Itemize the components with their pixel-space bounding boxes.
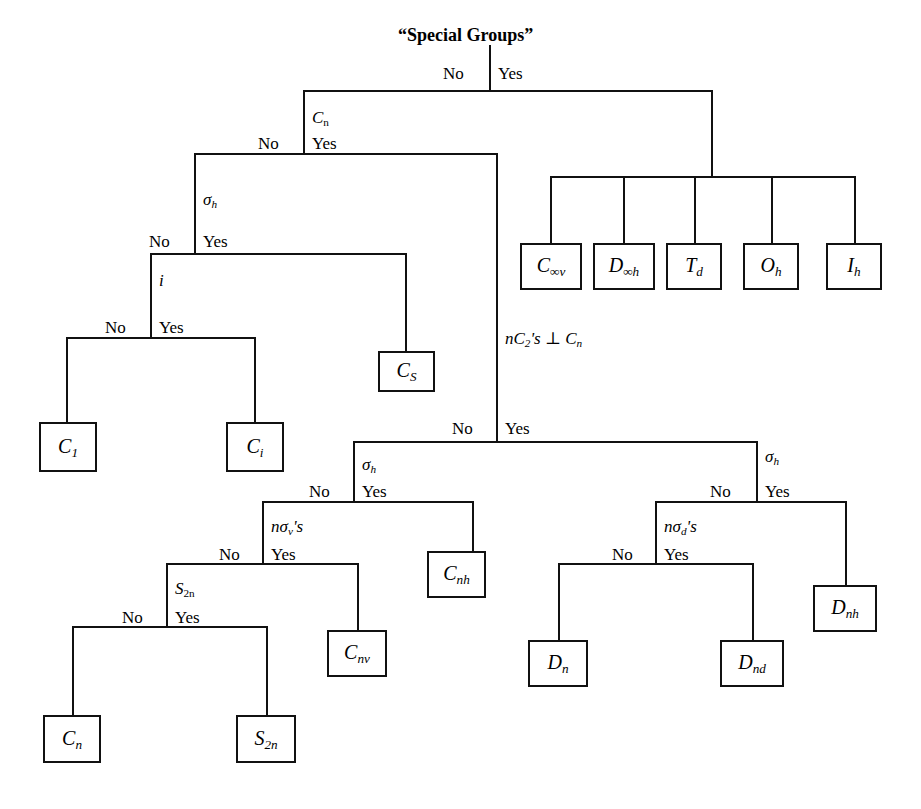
criterion-s2n-sub: 2n	[184, 587, 195, 599]
box-cn-base: C	[62, 727, 75, 749]
box-cnv: Cnv	[327, 630, 387, 677]
box-cnv-base: C	[344, 641, 357, 663]
sigma-h-right-crossbar	[655, 501, 847, 503]
box-s2n-sub: 2n	[264, 736, 277, 751]
box-ci: Ci	[226, 422, 284, 472]
dnd-stem	[752, 563, 754, 640]
box-c-inf-v-sub: ∞v	[550, 264, 565, 279]
box-oh-base: O	[760, 254, 774, 276]
n-sigma-v-yes-label: Yes	[271, 546, 296, 563]
box-cnh: Cnh	[427, 551, 486, 598]
box-ih-sub: h	[854, 264, 861, 279]
stem-c-inf-v	[550, 176, 552, 243]
sigma-h-mid-sub: h	[370, 463, 376, 475]
special-groups-drop	[711, 90, 713, 178]
box-d-inf-h-sub: ∞h	[623, 264, 639, 279]
criterion-sigma-h-right: σh	[765, 448, 779, 467]
box-dnh: Dnh	[813, 585, 877, 632]
box-dnh-base: D	[831, 596, 845, 618]
sigma-h-right-yes-label: Yes	[765, 483, 790, 500]
box-cn-stem	[72, 626, 74, 715]
c1-stem	[66, 337, 68, 422]
box-c-inf-v-base: C	[537, 254, 550, 276]
sigma-h-mid-no-label: No	[309, 483, 330, 500]
box-dnd-sub: nd	[753, 661, 766, 676]
box-dn-base: D	[547, 651, 561, 673]
cn-yes-drop	[496, 153, 498, 441]
sigma-h-mid-stem	[353, 441, 355, 501]
root-stem	[489, 45, 491, 90]
box-ih: Ih	[826, 243, 882, 290]
box-cnh-base: C	[443, 562, 456, 584]
s2n-node-stem	[166, 563, 168, 626]
dnh-stem	[845, 501, 847, 585]
special-groups-crossbar	[550, 176, 855, 178]
criterion-nc2-perp-cn: nC2's ⊥ Cn	[505, 330, 582, 349]
i-crossbar	[66, 337, 256, 339]
cnv-stem	[357, 563, 359, 630]
box-cs-sub: S	[410, 369, 417, 384]
stem-ih	[854, 176, 856, 243]
n-sigma-d-stem	[655, 501, 657, 563]
box-td-sub: d	[696, 264, 703, 279]
box-ci-base: C	[246, 435, 259, 457]
nsd-pre: nσ	[664, 517, 681, 536]
sigma-h-left-yes-label: Yes	[203, 233, 228, 250]
criterion-cn: Cn	[312, 109, 329, 128]
box-dnd-base: D	[738, 651, 752, 673]
box-c1-base: C	[58, 435, 71, 457]
i-node-stem	[150, 253, 152, 337]
box-s2n-stem	[266, 626, 268, 715]
i-yes-label: Yes	[159, 319, 184, 336]
box-cs: CS	[378, 351, 435, 392]
sigma-h-right-no-label: No	[710, 483, 731, 500]
box-c1: C1	[39, 422, 97, 472]
box-c1-sub: 1	[71, 444, 78, 459]
n-sigma-v-no-label: No	[219, 546, 240, 563]
stem-d-inf-h	[623, 176, 625, 243]
n-sigma-d-no-label: No	[612, 546, 633, 563]
box-cnv-sub: nv	[357, 651, 369, 666]
criterion-sigma-h-left: σh	[203, 191, 217, 210]
criterion-s2n-base: S	[175, 579, 184, 598]
nc2-no-label: No	[452, 420, 473, 437]
box-d-inf-h-base: D	[609, 254, 623, 276]
sigma-h-right-stem	[756, 441, 758, 501]
criterion-n-sigma-d: nσd's	[664, 518, 697, 537]
box-d-infinity-h: D∞h	[593, 243, 655, 290]
cn-node-stem	[303, 90, 305, 153]
cn-crossbar	[194, 153, 498, 155]
box-oh: Oh	[743, 243, 799, 290]
sigma-h-left-crossbar	[150, 253, 407, 255]
stem-oh	[771, 176, 773, 243]
s2n-crossbar	[72, 626, 268, 628]
n-sigma-v-crossbar	[166, 563, 359, 565]
criterion-sigma-h-mid: σh	[362, 456, 376, 475]
box-dnd: Dnd	[720, 640, 784, 687]
nsd-post: 's	[687, 517, 697, 536]
box-cn: Cn	[43, 715, 101, 763]
nsv-post: 's	[293, 517, 303, 536]
s2n-no-label: No	[122, 609, 143, 626]
s2n-yes-label: Yes	[175, 609, 200, 626]
criterion-cn-base: C	[312, 108, 323, 127]
box-ci-sub: i	[260, 444, 264, 459]
criterion-cn-sub: n	[323, 116, 329, 128]
nc2-crossbar	[353, 441, 758, 443]
n-sigma-d-yes-label: Yes	[664, 546, 689, 563]
box-cs-base: C	[397, 359, 410, 381]
cs-stem	[405, 253, 407, 351]
nsv-pre: nσ	[271, 517, 288, 536]
flowchart-canvas: “Special Groups” No Yes C∞v D∞h Td Oh Ih…	[0, 0, 921, 809]
stem-td	[694, 176, 696, 243]
root-yes-label: Yes	[498, 65, 523, 82]
cn-no-label: No	[258, 135, 279, 152]
box-dnh-sub: nh	[846, 606, 859, 621]
box-dn-sub: n	[562, 661, 569, 676]
i-no-label: No	[105, 319, 126, 336]
sigma-h-left-sub: h	[211, 198, 217, 210]
box-cnh-sub: nh	[457, 572, 470, 587]
criterion-i: i	[159, 272, 164, 289]
nc2-pre: nC	[505, 329, 525, 348]
box-td-base: T	[685, 254, 696, 276]
